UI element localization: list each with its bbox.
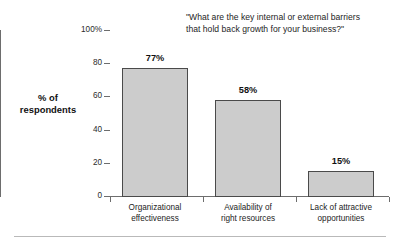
x-category-label-availability-of-right-resources: Availability of right resources bbox=[200, 203, 296, 225]
chart-title: "What are the key internal or external b… bbox=[186, 12, 396, 35]
x-category-label-organizational-effectiveness: Organizational effectiveness bbox=[107, 203, 203, 225]
y-tick-label-0: 0 bbox=[56, 191, 102, 200]
y-tick-20 bbox=[104, 163, 110, 164]
y-tick-60 bbox=[104, 96, 110, 97]
bar-lack-of-attractive-opportunities[interactable] bbox=[308, 171, 374, 197]
x-tick-0 bbox=[110, 197, 111, 202]
y-tick-100 bbox=[104, 30, 110, 31]
bar-value-availability-of-right-resources: 58% bbox=[213, 85, 283, 95]
y-tick-40 bbox=[104, 130, 110, 131]
bar-value-organizational-effectiveness: 77% bbox=[120, 53, 190, 63]
y-tick-label-80: 80 bbox=[56, 58, 102, 67]
bar-organizational-effectiveness[interactable] bbox=[122, 68, 188, 197]
bar-value-lack-of-attractive-opportunities: 15% bbox=[306, 156, 376, 166]
x-tick-1 bbox=[203, 197, 204, 202]
footer-divider bbox=[14, 236, 386, 237]
bar-chart-figure: "What are the key internal or external b… bbox=[0, 0, 399, 244]
y-tick-label-20: 20 bbox=[56, 158, 102, 167]
y-tick-label-100: 100% bbox=[56, 25, 102, 34]
y-tick-label-40: 40 bbox=[56, 125, 102, 134]
y-tick-80 bbox=[104, 63, 110, 64]
x-tick-2 bbox=[296, 197, 297, 202]
bar-availability-of-right-resources[interactable] bbox=[215, 100, 281, 197]
x-category-label-lack-of-attractive-opportunities: Lack of attractive opportunities bbox=[293, 203, 389, 225]
y-tick-label-60: 60 bbox=[56, 91, 102, 100]
x-tick-3 bbox=[389, 197, 390, 202]
y-axis-line bbox=[0, 30, 1, 197]
